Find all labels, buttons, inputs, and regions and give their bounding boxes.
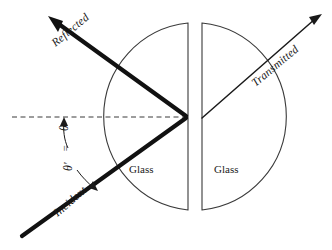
glass-right-label: Glass <box>214 163 238 175</box>
incident-ray <box>22 118 186 236</box>
reflected-ray <box>56 22 186 116</box>
theta-prime-label: θ' <box>61 163 76 171</box>
optics-diagram: Reflected Transmitted Incident Glass Gla… <box>0 0 332 250</box>
glass-left-label: Glass <box>129 163 153 175</box>
glass-right-shape <box>202 23 286 210</box>
angle-equals-label: = <box>59 145 71 152</box>
transmitted-ray <box>202 19 315 118</box>
theta-label: θ <box>57 125 72 131</box>
